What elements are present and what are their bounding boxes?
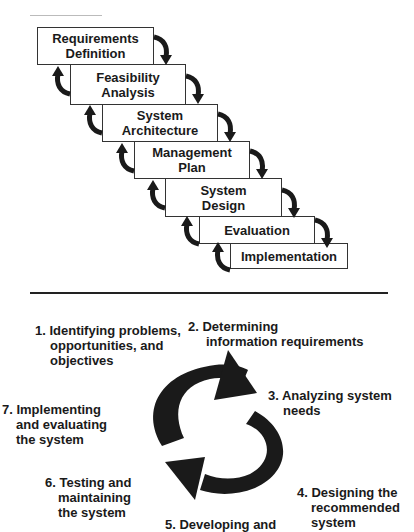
step-label: information requirements bbox=[188, 334, 363, 349]
step-label: the system bbox=[2, 432, 107, 447]
cycle-step-4: 4. Designing the recommended system bbox=[297, 485, 400, 530]
step-label: and evaluating bbox=[2, 417, 107, 432]
step-label: recommended bbox=[297, 500, 400, 515]
cycle-arrow-bottom-icon bbox=[165, 411, 283, 500]
cycle-step-3: 3. Analyzing system needs bbox=[268, 388, 392, 418]
step-label: system bbox=[297, 515, 400, 530]
step-label: 3. Analyzing system bbox=[268, 388, 392, 403]
step-label: needs bbox=[268, 403, 392, 418]
step-label: 2. Determining bbox=[188, 319, 363, 334]
cycle-step-5: 5. Developing and bbox=[165, 517, 276, 532]
step-label: 7. Implementing bbox=[2, 402, 107, 417]
cycle-step-7: 7. Implementing and evaluating the syste… bbox=[2, 402, 107, 447]
cycle-step-1: 1. Identifying problems, opportunities, … bbox=[35, 323, 181, 368]
step-label: maintaining bbox=[45, 490, 131, 505]
step-label: opportunities, and bbox=[35, 338, 181, 353]
step-label: 4. Designing the bbox=[297, 485, 400, 500]
step-label: objectives bbox=[35, 353, 181, 368]
step-label: the system bbox=[45, 505, 131, 520]
cycle-step-2: 2. Determining information requirements bbox=[188, 319, 363, 349]
cycle-step-6: 6. Testing and maintaining the system bbox=[45, 475, 131, 520]
step-label: 5. Developing and bbox=[165, 517, 276, 532]
step-label: 6. Testing and bbox=[45, 475, 131, 490]
step-label: 1. Identifying problems, bbox=[35, 323, 181, 338]
